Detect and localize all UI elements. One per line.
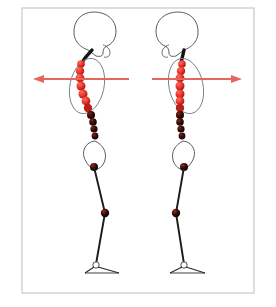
vertebra-bead: [176, 82, 185, 91]
vertebra-bead: [84, 104, 92, 112]
vertebra-bead: [89, 118, 97, 126]
vertebra-bead: [77, 60, 85, 68]
vertebra-bead: [90, 125, 97, 132]
vertebra-bead: [77, 82, 86, 91]
knee-joint: [101, 209, 109, 217]
vertebra-bead: [76, 74, 85, 83]
diagram-frame-border: [22, 8, 254, 293]
vertebra-bead: [176, 118, 184, 126]
vertebra-bead: [176, 111, 184, 119]
vertebra-bead: [179, 133, 186, 140]
vertebra-bead: [178, 60, 186, 68]
vertebra-bead: [92, 133, 99, 140]
diagram-canvas: [0, 0, 276, 307]
knee-joint: [172, 209, 180, 217]
vertebra-bead: [87, 111, 95, 119]
vertebra-bead: [177, 125, 184, 132]
posture-comparison-diagram: [0, 0, 276, 307]
vertebra-bead: [176, 104, 184, 112]
vertebra-bead: [176, 74, 185, 83]
